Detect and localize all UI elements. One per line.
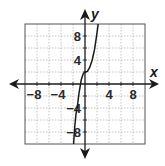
- cubic-function-graph: −8−44884−4−8 x y: [0, 0, 165, 166]
- y-tick-label: 4: [74, 53, 82, 68]
- x-tick-label: 8: [129, 87, 136, 102]
- y-tick-label: −4: [66, 101, 82, 116]
- y-axis-label: y: [90, 6, 100, 22]
- x-axis-label: x: [149, 64, 159, 80]
- x-tick-label: 4: [105, 87, 113, 102]
- x-tick-label: −4: [51, 87, 67, 102]
- y-tick-label: 8: [74, 29, 81, 44]
- x-tick-label: −8: [27, 87, 42, 102]
